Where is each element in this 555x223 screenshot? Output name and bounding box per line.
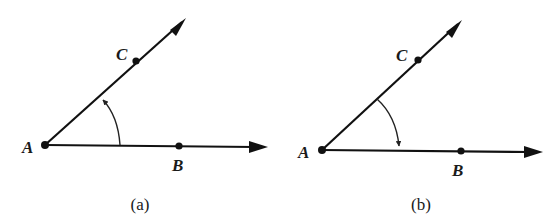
arrowhead-ab-icon — [524, 146, 543, 158]
label-c: C — [396, 46, 408, 65]
arrowhead-ac-icon — [170, 18, 186, 36]
arrowhead-ac-icon — [446, 20, 462, 38]
angle-arc-ccw-icon — [103, 100, 120, 145]
point-c — [132, 57, 139, 64]
label-c: C — [116, 45, 128, 64]
point-c — [414, 56, 421, 63]
point-b — [457, 147, 464, 154]
angle-diagram: A B C (a) A B C (b) — [0, 0, 555, 223]
ray-ac — [45, 22, 182, 145]
point-a — [41, 141, 49, 149]
point-b — [175, 142, 182, 149]
arrowhead-ab-icon — [249, 141, 268, 153]
panel-b: A B C (b) — [297, 20, 543, 214]
label-b: B — [171, 156, 183, 175]
panel-a: A B C (a) — [21, 18, 268, 214]
label-b: B — [451, 161, 463, 180]
caption-a: (a) — [131, 195, 150, 214]
ray-ac — [322, 24, 458, 150]
ray-ab — [45, 145, 255, 147]
point-a — [318, 146, 326, 154]
caption-b: (b) — [411, 195, 431, 214]
angle-arc-cw-icon — [377, 99, 399, 146]
ray-ab — [322, 150, 530, 152]
label-a: A — [21, 138, 33, 157]
label-a: A — [297, 143, 309, 162]
